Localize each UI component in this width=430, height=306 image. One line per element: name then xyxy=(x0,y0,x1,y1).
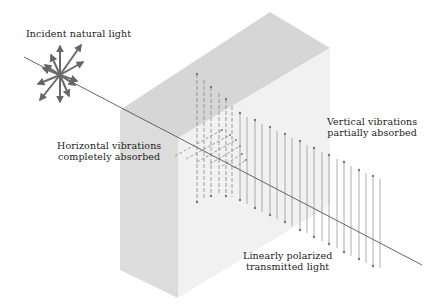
transmitted-light-label: Linearly polarized transmitted light xyxy=(243,250,332,272)
vertical-partially-absorbed-label: Vertical vibrations partially absorbed xyxy=(327,116,417,138)
transmitted-line1: Linearly polarized xyxy=(243,250,332,261)
vertical-absorbed-line1: Vertical vibrations xyxy=(327,116,417,127)
incident-light-star-icon xyxy=(38,45,83,102)
incident-light-label: Incident natural light xyxy=(26,28,131,39)
polarization-diagram: Incident natural light Horizontal vibrat… xyxy=(0,0,430,306)
vertical-absorbed-line2: partially absorbed xyxy=(327,127,417,138)
horizontal-absorbed-line1: Horizontal vibrations xyxy=(57,140,161,151)
horizontal-absorbed-label: Horizontal vibrations completely absorbe… xyxy=(57,140,161,162)
horizontal-absorbed-line2: completely absorbed xyxy=(57,151,161,162)
slab-front-face xyxy=(120,110,178,298)
transmitted-line2: transmitted light xyxy=(243,261,332,272)
